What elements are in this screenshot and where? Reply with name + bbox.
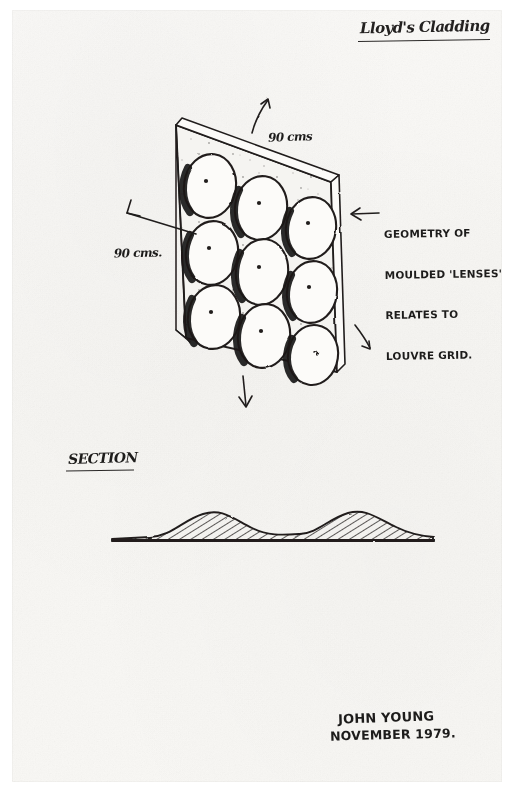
annotation-note: GEOMETRY OF MOULDED 'LENSES' RELATES TO … [384, 199, 504, 390]
paper-surface [12, 10, 502, 782]
annotation-note-line-1: GEOMETRY OF [384, 226, 502, 241]
annotation-note-line-4: LOUVRE GRID. [386, 348, 504, 363]
annotation-note-line-3: RELATES TO [385, 307, 503, 322]
dimension-label-left: 90 cms. [114, 245, 162, 260]
drawing-title: Lloyd's Cladding [360, 17, 490, 38]
section-label: SECTION [68, 449, 138, 467]
sketch-sheet: Lloyd's Cladding 90 cms 90 cms. GEOMETRY… [0, 0, 514, 791]
annotation-note-line-2: MOULDED 'LENSES' [385, 267, 503, 282]
dimension-label-top: 90 cms [268, 129, 313, 145]
